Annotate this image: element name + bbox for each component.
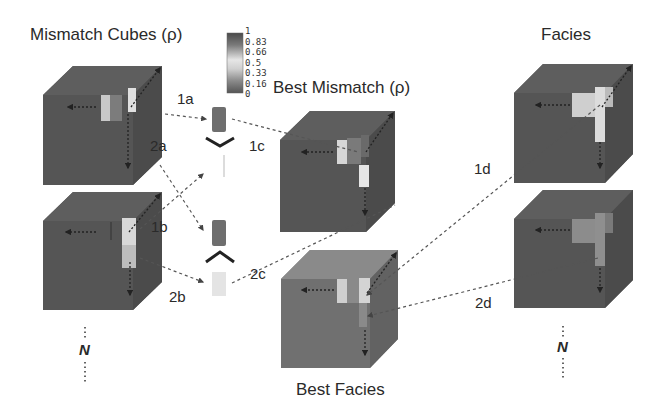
max-chevron xyxy=(206,252,234,262)
min-operator-group xyxy=(206,107,234,177)
best-mismatch-cube xyxy=(280,111,395,232)
step-label-1d: 1d xyxy=(474,160,491,177)
facies-cube-1 xyxy=(514,64,633,183)
ellipsis-n-right: N xyxy=(557,338,568,355)
colorbar-tick: 0.83 xyxy=(245,37,267,48)
block-2a xyxy=(212,220,226,246)
colorbar-tick: 0 xyxy=(245,89,267,100)
mismatch-cube-2 xyxy=(43,192,162,310)
step-label-1a: 1a xyxy=(177,90,194,107)
arrow-1a xyxy=(165,114,206,119)
title-facies: Facies xyxy=(541,25,591,45)
facies-cube-2 xyxy=(514,190,633,308)
step-label-1c: 1c xyxy=(249,137,265,154)
mismatch-cube-1 xyxy=(43,66,162,185)
block-2b xyxy=(212,272,226,296)
best-facies-cube xyxy=(281,250,398,368)
max-operator-group xyxy=(206,220,234,296)
min-chevron xyxy=(206,138,234,146)
step-label-2b: 2b xyxy=(169,288,186,305)
title-best-facies: Best Facies xyxy=(296,380,385,400)
title-best-mismatch: Best Mismatch (ρ) xyxy=(273,78,410,98)
colorbar-tick: 0.16 xyxy=(245,79,267,90)
colorbar-tick: 1 xyxy=(245,26,267,37)
block-1a xyxy=(212,107,226,132)
block-empty xyxy=(223,155,225,177)
colorbar-tick: 0.5 xyxy=(245,58,267,69)
step-label-2c: 2c xyxy=(250,265,266,282)
step-label-2a: 2a xyxy=(150,137,167,154)
ellipsis-n-left: N xyxy=(79,341,90,358)
colorbar-ticks: 1 0.83 0.66 0.5 0.33 0.16 0 xyxy=(245,26,267,100)
colorbar-tick: 0.66 xyxy=(245,47,267,58)
step-label-1b: 1b xyxy=(151,218,168,235)
colorbar-tick: 0.33 xyxy=(245,68,267,79)
step-label-2d: 2d xyxy=(475,294,492,311)
title-mismatch-cubes: Mismatch Cubes (ρ) xyxy=(30,25,182,45)
colorbar xyxy=(227,33,243,93)
